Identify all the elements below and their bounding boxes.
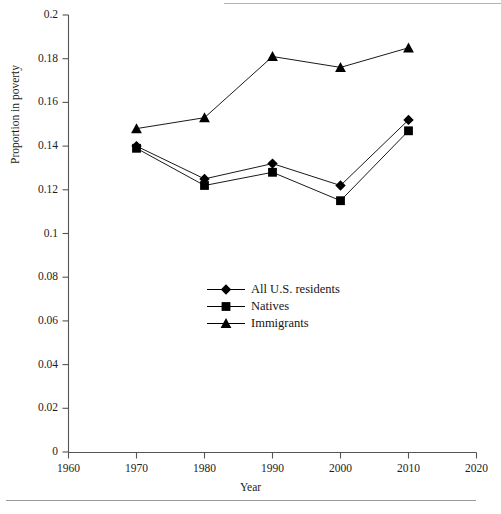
y-axis-title: Proportion in poverty	[10, 148, 22, 164]
y-tick-label-0.02: 0.02	[14, 403, 58, 415]
y-tick-label-0.1: 0.1	[14, 228, 58, 240]
data-point-marker	[267, 51, 278, 61]
data-point-marker	[267, 158, 277, 168]
series-all-us-residents	[131, 115, 413, 191]
y-tick-label-0.12: 0.12	[14, 184, 58, 196]
data-point-marker	[200, 181, 209, 190]
chart-plot-area	[0, 0, 501, 514]
y-tick-label-0.04: 0.04	[14, 359, 58, 371]
legend-label: All U.S. residents	[247, 283, 340, 296]
y-tick-label-0.18: 0.18	[14, 53, 58, 65]
triangle-marker-icon	[205, 315, 247, 332]
data-point-marker	[336, 196, 345, 205]
series-immigrants	[131, 42, 414, 133]
legend-item-all-us-residents: All U.S. residents	[205, 281, 340, 298]
x-tick-label-2020: 2020	[465, 463, 488, 475]
x-tick-label-2010: 2010	[397, 463, 420, 475]
legend-label: Immigrants	[247, 317, 309, 330]
x-axis-ticks	[69, 453, 477, 459]
y-tick-label-0.2: 0.2	[14, 9, 58, 21]
poverty-proportion-line-chart: 0.2 0.18 0.16 0.14 0.12 0.1 0.08 0.06 0.…	[0, 0, 501, 514]
x-tick-label-1960: 1960	[57, 463, 80, 475]
x-tick-label-1970: 1970	[125, 463, 148, 475]
y-tick-label-0.08: 0.08	[14, 271, 58, 283]
y-tick-label-0: 0	[14, 446, 58, 458]
square-marker-icon	[205, 298, 247, 315]
data-point-marker	[132, 144, 141, 153]
x-tick-label-2000: 2000	[329, 463, 352, 475]
y-tick-label-0.06: 0.06	[14, 315, 58, 327]
figure-caption	[6, 503, 366, 514]
data-point-marker	[404, 126, 413, 135]
legend-item-immigrants: Immigrants	[205, 315, 340, 332]
x-tick-label-1990: 1990	[261, 463, 284, 475]
x-tick-label-1980: 1980	[193, 463, 216, 475]
legend-item-natives: Natives	[205, 298, 340, 315]
y-axis-ticks	[63, 15, 69, 452]
data-point-marker	[268, 168, 277, 177]
diamond-marker-icon	[205, 281, 247, 298]
chart-legend: All U.S. residents Natives Immigrants	[205, 281, 340, 332]
data-point-marker	[403, 42, 414, 52]
x-axis-title: Year	[0, 482, 501, 494]
caption-divider-rule	[6, 500, 476, 501]
axis-lines	[68, 15, 477, 453]
legend-label: Natives	[247, 300, 289, 313]
